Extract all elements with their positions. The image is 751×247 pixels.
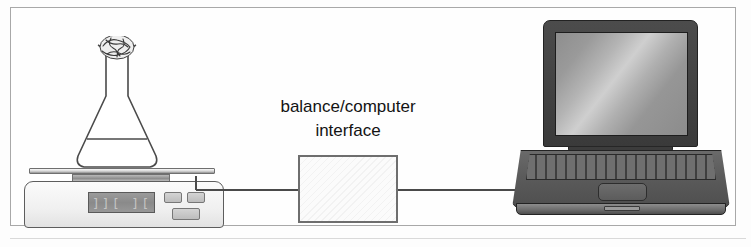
laptop-trackpad[interactable] — [598, 183, 647, 201]
interface-box — [298, 155, 398, 223]
laptop-lid — [543, 20, 698, 147]
laptop-keyboard[interactable] — [526, 154, 716, 180]
electronic-balance: ]][ ][ — [24, 168, 224, 230]
flask-drawing — [62, 36, 172, 172]
figure-bottom-rule — [10, 238, 746, 239]
balance-button-right[interactable] — [187, 192, 205, 203]
cable-elbow — [195, 176, 197, 190]
balance-button-bottom[interactable] — [172, 208, 200, 220]
balance-display-value: ]][ ][ — [89, 196, 154, 211]
cable-interface-to-laptop — [398, 189, 522, 191]
cotton-plug-icon — [100, 36, 134, 59]
figure-container: ]][ ][ balance/computer interface — [0, 0, 751, 247]
laptop-computer — [512, 20, 730, 223]
laptop-latch[interactable] — [604, 206, 640, 211]
interface-label: balance/computer interface — [238, 95, 458, 143]
balance-display: ]][ ][ — [88, 192, 155, 213]
cable-balance-to-interface — [196, 189, 298, 191]
erlenmeyer-flask — [62, 36, 172, 172]
balance-button-left[interactable] — [164, 192, 182, 203]
laptop-screen — [555, 32, 688, 136]
